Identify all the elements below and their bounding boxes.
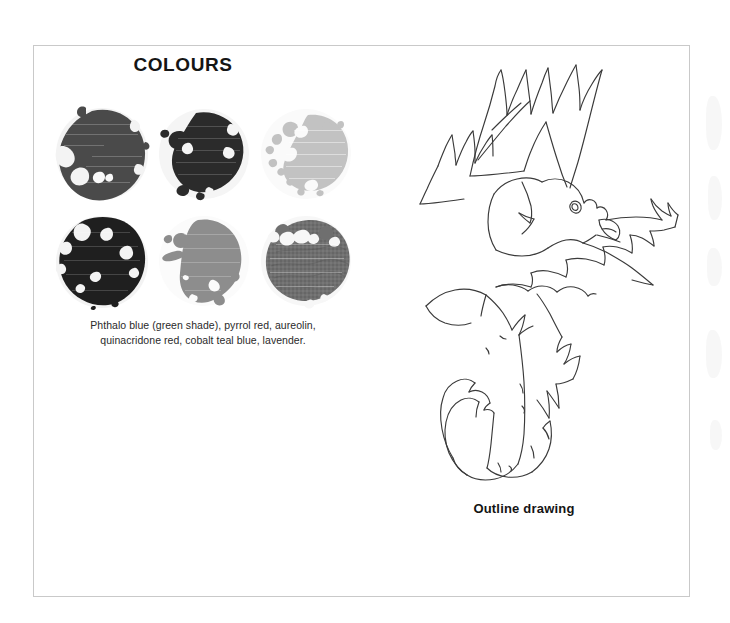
scan-artifact [707, 248, 722, 286]
swatch-grid [52, 102, 362, 313]
outline-drawing-rooster [374, 54, 684, 494]
colours-caption-line-2: quinacridone red, cobalt teal blue, lave… [100, 334, 305, 346]
swatch-lavender[interactable] [256, 208, 356, 313]
page-frame: COLOURS [33, 45, 690, 597]
swatch-pyrrol-red[interactable] [154, 102, 254, 207]
swatch-aureolin[interactable] [256, 102, 356, 207]
colours-caption-line-1: Phthalo blue (green shade), pyrrol red, … [90, 319, 315, 331]
scan-artifact [708, 176, 722, 220]
outline-drawing-caption: Outline drawing [374, 501, 674, 516]
scan-artifact [710, 420, 722, 450]
colours-panel: COLOURS [48, 50, 378, 76]
swatch-phthalo-blue-green-shade[interactable] [52, 102, 152, 207]
swatch-quinacridone-red[interactable] [52, 208, 152, 313]
colours-caption: Phthalo blue (green shade), pyrrol red, … [48, 318, 358, 348]
swatch-cobalt-teal-blue[interactable] [154, 208, 254, 313]
scan-artifact [706, 330, 722, 378]
drawing-panel: Outline drawing [374, 46, 691, 598]
scan-artifact [706, 96, 722, 150]
colours-title: COLOURS [48, 50, 318, 76]
